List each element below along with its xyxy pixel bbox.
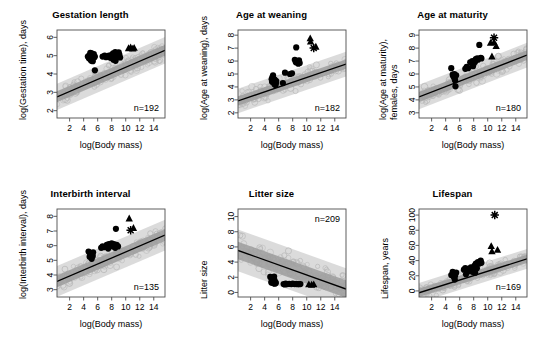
circle-marker: [478, 55, 484, 61]
x-tick-label: 6: [95, 302, 100, 312]
x-tick-label: 14: [149, 302, 159, 312]
triangle-marker: [494, 246, 501, 253]
y-tick-label: 20: [407, 271, 417, 281]
circle-marker: [87, 50, 93, 56]
circle-marker: [452, 77, 458, 83]
x-tick-label: 6: [276, 123, 281, 133]
panel-age-at-weaning: Age at weaning24681012142345678n=182log(…: [181, 0, 362, 178]
y-tick-label: 7: [226, 45, 236, 50]
x-axis-label-interbirth-interval: log(Body mass): [57, 319, 165, 329]
star-marker: [490, 34, 498, 42]
life-history-panel-figure: Gestation length246810121423456n=192log(…: [0, 0, 543, 357]
y-tick-label: 60: [407, 240, 417, 250]
y-tick-label: 5: [226, 71, 236, 76]
circle-marker: [293, 59, 299, 65]
circle-marker: [472, 270, 478, 276]
circle-marker: [273, 78, 279, 84]
x-tick-label: 14: [330, 123, 340, 133]
x-tick-label: 2: [67, 123, 72, 133]
y-tick-label: 4: [226, 259, 236, 264]
x-tick-label: 2: [67, 302, 72, 312]
panel-litter-size: Litter size24681012140246810n=209Litter …: [181, 179, 362, 357]
y-tick-label: 7: [45, 228, 55, 233]
x-tick-label: 10: [121, 302, 131, 312]
circle-marker: [109, 243, 115, 249]
panel-interbirth-interval: Interbirth interval2468101214345678n=135…: [0, 179, 181, 357]
y-axis-label-litter-size: Litter size: [199, 260, 209, 299]
star-marker: [491, 211, 499, 219]
circle-marker: [452, 83, 458, 89]
x-tick-label: 6: [457, 123, 462, 133]
circle-marker: [453, 270, 459, 276]
x-axis-label-age-at-weaning: log(Body mass): [238, 140, 346, 150]
x-tick-label: 4: [262, 302, 267, 312]
y-tick-label: 80: [407, 225, 417, 235]
circle-marker: [448, 65, 454, 71]
x-tick-label: 4: [443, 123, 448, 133]
x-tick-label: 2: [248, 302, 253, 312]
y-tick-label: 3: [226, 97, 236, 102]
y-tick-label: 40: [407, 256, 417, 266]
y-tick-label: 4: [45, 272, 55, 277]
x-tick-label: 10: [121, 123, 131, 133]
y-tick-label: 0: [407, 288, 417, 293]
regression-line-age-at-weaning: [238, 64, 346, 101]
circle-marker: [280, 80, 286, 86]
circle-marker: [293, 44, 299, 50]
y-tick-label: 5: [407, 84, 417, 89]
x-tick-label: 4: [443, 302, 448, 312]
circle-marker: [297, 281, 303, 287]
star-marker: [310, 44, 318, 52]
y-tick-label: 100: [407, 208, 417, 222]
y-tick-label: 5: [45, 53, 55, 58]
panel-age-at-maturity: Age at maturity24681012143456789n=180log…: [362, 0, 543, 178]
x-tick-label: 10: [302, 123, 312, 133]
circle-marker: [453, 72, 459, 78]
y-tick-label: 8: [45, 214, 55, 219]
x-tick-label: 4: [262, 123, 267, 133]
x-tick-label: 14: [149, 123, 159, 133]
x-tick-label: 6: [457, 302, 462, 312]
circle-marker: [463, 271, 469, 277]
x-tick-label: 8: [471, 123, 476, 133]
y-tick-label: 0: [226, 290, 236, 295]
circle-marker: [272, 281, 278, 287]
panel-gestation-length: Gestation length246810121423456n=192log(…: [0, 0, 181, 178]
x-tick-label: 12: [316, 302, 326, 312]
y-tick-label: 2: [45, 108, 55, 113]
x-tick-label: 8: [290, 302, 295, 312]
x-tick-label: 6: [276, 302, 281, 312]
x-tick-label: 12: [135, 302, 145, 312]
y-tick-label: 3: [45, 90, 55, 95]
x-axis-label-litter-size: log(Body mass): [238, 319, 346, 329]
sample-size-label: n=180: [496, 103, 521, 113]
y-tick-label: 2: [226, 110, 236, 115]
x-tick-label: 12: [135, 123, 145, 133]
x-tick-label: 2: [248, 123, 253, 133]
y-tick-label: 7: [407, 58, 417, 63]
y-tick-label: 6: [45, 243, 55, 248]
x-tick-label: 8: [290, 123, 295, 133]
x-tick-label: 14: [511, 302, 521, 312]
x-tick-label: 8: [109, 302, 114, 312]
circle-marker: [282, 281, 288, 287]
x-tick-label: 6: [95, 123, 100, 133]
x-tick-label: 2: [429, 123, 434, 133]
x-tick-label: 8: [109, 123, 114, 133]
circle-marker: [107, 55, 113, 61]
circle-marker: [92, 67, 98, 73]
y-tick-label: 2: [226, 275, 236, 280]
y-tick-label: 6: [226, 58, 236, 63]
circle-marker: [478, 260, 484, 266]
x-tick-label: 2: [429, 302, 434, 312]
y-tick-label: 4: [407, 97, 417, 102]
y-tick-label: 6: [45, 35, 55, 40]
x-tick-label: 12: [497, 123, 507, 133]
circle-marker: [289, 70, 295, 76]
y-axis-label-age-at-weaning: log(Age at weaning), days: [199, 16, 209, 120]
y-axis-label-lifespan: Lifespan, years: [380, 238, 390, 299]
sample-size-label: n=169: [496, 282, 521, 292]
circle-marker: [113, 226, 119, 232]
y-tick-label: 3: [407, 110, 417, 115]
y-tick-label: 4: [226, 84, 236, 89]
